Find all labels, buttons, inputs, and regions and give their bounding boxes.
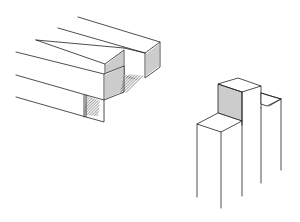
timber-joint-drawing [0,0,300,222]
left-timbers [16,17,160,122]
right-posts [197,78,281,208]
illustration-canvas [0,0,300,222]
timber-front [16,95,104,122]
